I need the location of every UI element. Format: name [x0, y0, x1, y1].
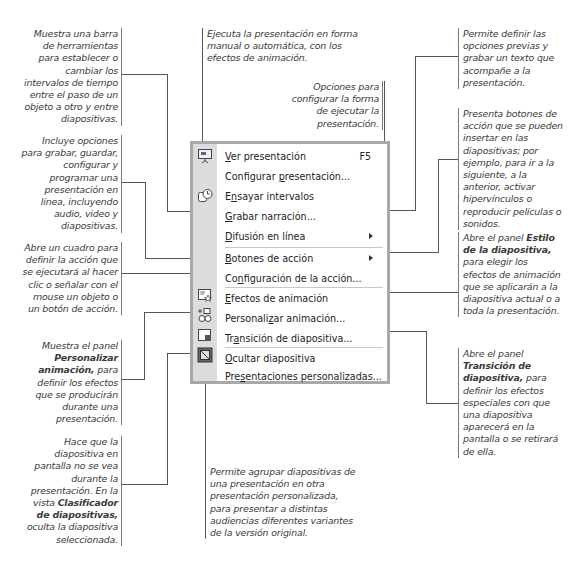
submenu-arrow-icon — [369, 233, 373, 239]
connector-line — [438, 159, 439, 252]
hide-slide-icon — [197, 347, 213, 363]
menu-item-label: Configuración de la acción... — [225, 273, 361, 284]
connector-line — [144, 312, 145, 380]
menu-item-configuracion-de-la-accion[interactable]: Configuración de la acción... — [217, 268, 387, 288]
note-text: Abre el panel — [463, 232, 523, 243]
connector-line — [167, 74, 168, 212]
note-ocultar-diapositiva: Hace que la diapositiva en pantalla no s… — [20, 436, 122, 546]
submenu-arrow-icon — [369, 255, 373, 261]
menu-item-botones-de-accion[interactable]: Botones de acción — [217, 248, 387, 268]
slideshow-icon — [197, 148, 213, 164]
connector-line — [122, 74, 167, 75]
note-text: para definir los efectos especiales con … — [463, 372, 558, 456]
note-botones-accion: Presenta botones de acción que se pueden… — [458, 108, 563, 230]
connector-line — [122, 379, 144, 380]
menu-item-ver-presentacion[interactable]: Ver presentación F5 — [217, 146, 387, 166]
menu-item-label: Ensayar intervalos — [225, 191, 314, 202]
connector-line — [122, 484, 167, 485]
menu-icon-gutter — [193, 144, 217, 381]
menu-item-ensayar-intervalos[interactable]: Ensayar intervalos — [217, 186, 387, 206]
connector-line — [167, 353, 168, 485]
menu-item-label: Ver presentación — [225, 151, 306, 162]
connector-line — [426, 331, 427, 403]
note-text: para elegir los efectos de animación que… — [463, 256, 561, 316]
note-configurar-presentacion: Opciones para configurar la forma de eje… — [280, 81, 383, 130]
connector-line — [122, 182, 145, 183]
slide-transition-icon — [197, 327, 213, 343]
menu-item-presentaciones-personalizadas[interactable]: Presentaciones personalizadas... — [217, 366, 387, 386]
menu-item-ocultar-diapositiva[interactable]: Ocultar diapositiva — [217, 348, 387, 368]
note-efectos-animacion: Abre el panel Estilo de la diapositiva, … — [458, 232, 563, 317]
note-presentaciones-personalizadas: Permite agrupar diapositivas de una pres… — [205, 466, 360, 539]
menu-item-personalizar-animacion[interactable]: Personalizar animación... — [217, 308, 387, 328]
connector-line — [415, 56, 458, 57]
menu-item-difusion-en-linea[interactable]: Difusión en línea — [217, 226, 387, 246]
menu-item-label: Presentaciones personalizadas... — [225, 371, 382, 382]
shortcut-label: F5 — [359, 151, 371, 162]
connector-line — [202, 28, 203, 146]
note-ver-presentacion: Ejecuta la presentación en forma manual … — [202, 28, 367, 65]
menu-item-label: Difusión en línea — [225, 231, 305, 242]
connector-line — [426, 403, 458, 404]
note-difusion-en-linea: Incluye opciones para grabar, guardar, c… — [20, 135, 122, 233]
menu-item-grabar-narracion[interactable]: Grabar narración... — [217, 206, 387, 226]
note-configuracion-accion: Abre un cuadro para definir la acción qu… — [20, 242, 122, 315]
note-text: oculta la diapositiva seleccionada. — [27, 521, 118, 544]
rehearse-timings-icon — [197, 188, 213, 204]
menu-item-efectos-de-animacion[interactable]: Efectos de animación — [217, 288, 387, 308]
note-bold-text: Transición de diapositiva, — [463, 360, 531, 383]
connector-line — [144, 312, 196, 313]
note-personalizar-animacion: Muestra el panel Personalizar animación,… — [20, 340, 122, 425]
connector-line — [415, 56, 416, 211]
presentation-menu: Ver presentación F5 Configurar presentac… — [190, 141, 390, 384]
menu-item-label: Configurar presentación... — [225, 171, 350, 182]
note-text: Muestra el panel — [42, 340, 118, 351]
menu-item-label: Grabar narración... — [225, 211, 316, 222]
menu-item-transicion-de-diapositiva[interactable]: Transición de diapositiva... — [217, 328, 387, 348]
menu-item-label: Efectos de animación — [225, 293, 328, 304]
menu-item-configurar-presentacion[interactable]: Configurar presentación... — [217, 166, 387, 186]
custom-animation-icon — [197, 307, 213, 323]
note-grabar-narracion: Permite definir las opciones previas y g… — [458, 28, 563, 89]
menu-item-label: Ocultar diapositiva — [225, 353, 315, 364]
note-transicion-diapositiva: Abre el panel Transición de diapositiva,… — [458, 348, 563, 458]
menu-item-label: Personalizar animación... — [225, 313, 345, 324]
connector-line — [205, 373, 206, 538]
animation-schemes-icon — [197, 287, 213, 303]
connector-line — [438, 159, 458, 160]
note-ensayar-intervalos: Muestra una barra de herramientas para e… — [20, 28, 122, 126]
note-text: Abre el panel — [463, 348, 523, 359]
menu-item-label: Transición de diapositiva... — [225, 333, 352, 344]
connector-line — [145, 182, 146, 258]
menu-item-label: Botones de acción — [225, 253, 313, 264]
